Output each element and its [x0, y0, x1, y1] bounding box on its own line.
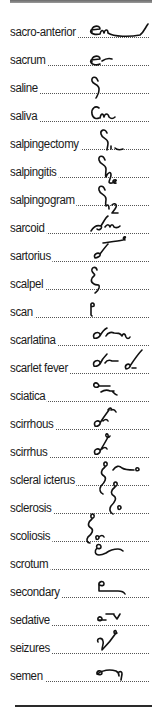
list-item: sclerosis	[10, 498, 149, 518]
term-label: saliva	[10, 109, 39, 123]
scan-outline-icon	[84, 298, 100, 320]
term-label: scan	[10, 305, 35, 319]
term-label: sartorius	[10, 249, 53, 263]
term-label: scarlatina	[10, 333, 57, 347]
term-label: seizures	[10, 641, 52, 655]
scirrhous-outline-icon	[90, 404, 120, 432]
sacrum-outline-icon	[88, 50, 118, 70]
sciatica-outline-icon	[90, 378, 124, 402]
list-item: scoliosis	[10, 526, 149, 546]
term-label: scirrhous	[10, 417, 55, 431]
list-item: sacrum	[10, 50, 149, 70]
term-label: salpingogram	[10, 193, 76, 207]
term-label: sacro-anterior	[10, 25, 78, 39]
term-label: salpingectomy	[10, 137, 81, 151]
list-item: sartorius	[10, 246, 149, 266]
list-item: scrotum	[10, 554, 149, 574]
list-item: scirrhous	[10, 414, 149, 434]
list-item: sedative	[10, 610, 149, 630]
list-item: scarlet fever	[10, 358, 149, 378]
term-label: scalpel	[10, 277, 45, 291]
sarcoid-outline-icon	[88, 212, 124, 236]
list-item: seizures	[10, 638, 149, 658]
list-item: saline	[10, 78, 149, 98]
term-label: sedative	[10, 613, 52, 627]
list-item: scalpel	[10, 274, 149, 294]
list-item: scarlatina	[10, 330, 149, 350]
term-label: scleral icterus	[10, 473, 77, 487]
term-label: sacrum	[10, 53, 47, 67]
sacro-anterior-outline-icon	[88, 20, 150, 42]
list-item: semen	[10, 666, 149, 686]
term-label: scrotum	[10, 557, 50, 571]
list-item: secondary	[10, 582, 149, 602]
term-label: sarcoid	[10, 221, 46, 235]
saline-outline-icon	[88, 72, 108, 100]
list-item: salpingogram	[10, 190, 149, 210]
term-label: salpingitis	[10, 165, 58, 179]
term-label: scarlet fever	[10, 361, 70, 375]
scarlet-fever-outline-icon	[90, 348, 148, 378]
saliva-outline-icon	[90, 102, 120, 126]
semen-outline-icon	[94, 664, 128, 684]
list-item: sacro-anterior	[10, 22, 149, 42]
list-item: salpingectomy	[10, 134, 149, 154]
scalpel-outline-icon	[86, 264, 108, 296]
sedative-outline-icon	[94, 606, 126, 626]
term-label: sclerosis	[10, 501, 53, 515]
list-item: sciatica	[10, 386, 149, 406]
term-label: secondary	[10, 585, 62, 599]
bottom-rule	[15, 705, 152, 707]
sartorius-outline-icon	[90, 236, 130, 264]
seizures-outline-icon	[94, 628, 124, 658]
secondary-outline-icon	[94, 576, 134, 600]
scarlatina-outline-icon	[90, 324, 134, 348]
list-item: scan	[10, 302, 149, 322]
term-label: saline	[10, 81, 40, 95]
term-label: sciatica	[10, 389, 47, 403]
list-item: salpingitis	[10, 162, 149, 182]
term-label: scirrhus	[10, 445, 49, 459]
term-label: scoliosis	[10, 529, 52, 543]
list-item: sarcoid	[10, 218, 149, 238]
term-label: semen	[10, 669, 45, 683]
scrotum-outline-icon	[92, 542, 128, 568]
list-item: saliva	[10, 106, 149, 126]
top-rule	[10, 0, 152, 3]
